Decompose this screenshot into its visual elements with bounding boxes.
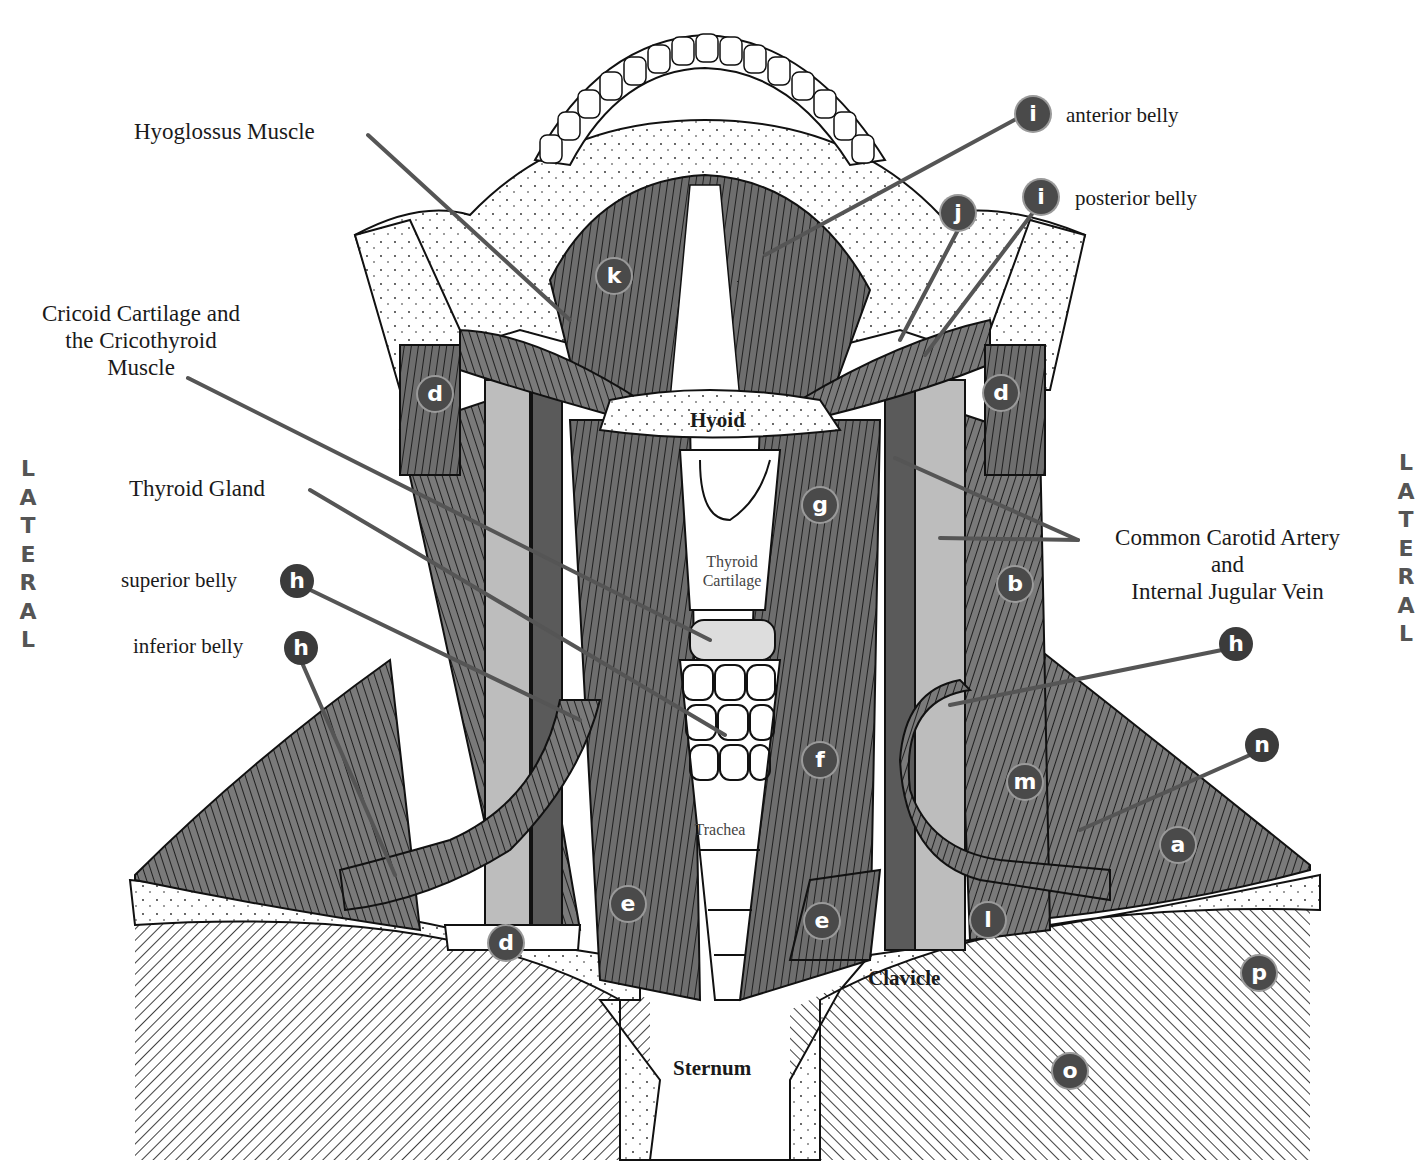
label-sternum: Sternum (673, 1055, 751, 1082)
badge-a: a (1161, 828, 1195, 862)
label-posterior-belly: posterior belly (1075, 185, 1197, 212)
label-hyoglossus-muscle: Hyoglossus Muscle (134, 118, 315, 145)
lateral-letter: A (1391, 478, 1417, 507)
lateral-letter: T (13, 512, 43, 541)
badge-k: k (597, 259, 631, 293)
badge-h-inferior: h (284, 631, 318, 665)
label-hyoid: Hyoid (690, 407, 745, 434)
label-line: Internal Jugular Vein (1080, 578, 1375, 605)
badge-h-superior: h (280, 564, 314, 598)
badge-n: n (1245, 728, 1279, 762)
badge-d-sternal: d (489, 926, 523, 960)
badge-g: g (803, 488, 837, 522)
lateral-letter: R (13, 569, 43, 598)
lateral-marker-right: L A T E R A L (1391, 449, 1417, 649)
lateral-letter: A (13, 484, 43, 513)
neck-anatomy-diagram: L A T E R A L L A T E R A L Hyoglossus M… (0, 0, 1417, 1173)
badge-e-left: e (611, 887, 645, 921)
badge-f: f (803, 743, 837, 777)
badge-e-right: e (805, 904, 839, 938)
lateral-letter: E (1391, 535, 1417, 564)
lateral-letter: L (13, 626, 43, 655)
badge-h-right: h (1219, 627, 1253, 661)
badge-p: p (1242, 956, 1276, 990)
label-cricoid-cartilage: Cricoid Cartilage and the Cricothyroid M… (12, 300, 270, 381)
badge-d-right: d (984, 376, 1018, 410)
lateral-letter: L (1391, 620, 1417, 649)
label-line: the Cricothyroid (12, 327, 270, 354)
lateral-letter: E (13, 541, 43, 570)
badge-b: b (998, 567, 1032, 601)
label-superior-belly: superior belly (121, 567, 237, 594)
label-line: Muscle (12, 354, 270, 381)
lateral-marker-left: L A T E R A L (13, 455, 43, 655)
lateral-letter: R (1391, 563, 1417, 592)
label-clavicle: Clavicle (868, 965, 940, 992)
badge-d-left: d (418, 377, 452, 411)
label-line: Common Carotid Artery (1080, 524, 1375, 551)
label-thyroid-gland: Thyroid Gland (129, 475, 265, 502)
lateral-letter: T (1391, 506, 1417, 535)
label-thyroid-cartilage: Thyroid Cartilage (692, 552, 772, 590)
badge-l: l (971, 903, 1005, 937)
badge-i-posterior: i (1024, 180, 1058, 214)
lateral-letter: L (13, 455, 43, 484)
label-line: and (1080, 551, 1375, 578)
lateral-letter: A (1391, 592, 1417, 621)
label-line: Cricoid Cartilage and (12, 300, 270, 327)
badge-j: j (941, 196, 975, 230)
label-carotid-jugular: Common Carotid Artery and Internal Jugul… (1080, 524, 1375, 605)
label-inferior-belly: inferior belly (133, 633, 243, 660)
label-line: Cartilage (692, 571, 772, 590)
lateral-letter: A (13, 598, 43, 627)
label-line: Thyroid (692, 552, 772, 571)
badge-m: m (1008, 765, 1042, 799)
badge-o: o (1053, 1054, 1087, 1088)
badge-i-anterior: i (1016, 97, 1050, 131)
lateral-letter: L (1391, 449, 1417, 478)
label-anterior-belly: anterior belly (1066, 102, 1179, 129)
label-trachea: Trachea (684, 820, 756, 839)
